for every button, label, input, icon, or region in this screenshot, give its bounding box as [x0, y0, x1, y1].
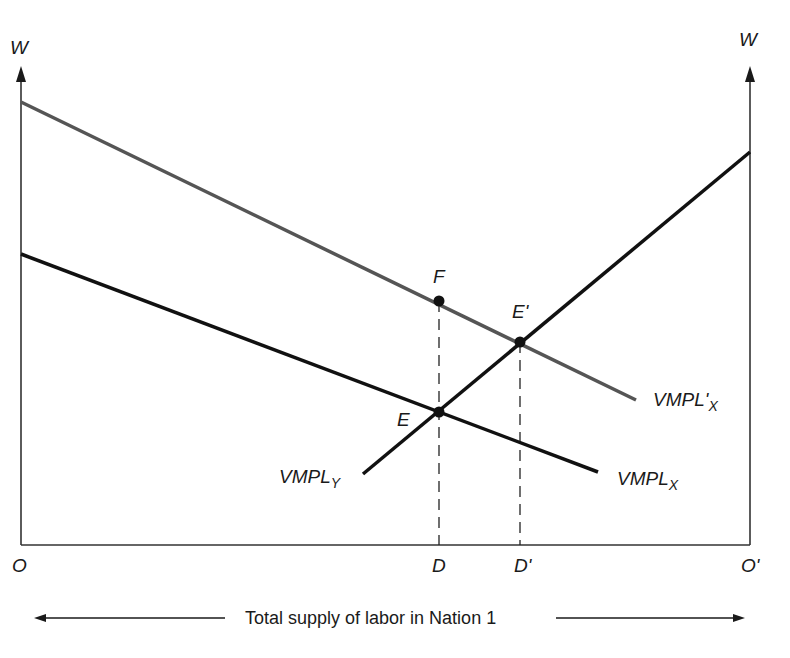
- point-e: [434, 407, 445, 418]
- x-axis-caption: Total supply of labor in Nation 1: [245, 609, 496, 627]
- curve-vmpl-y-sub: Y: [331, 475, 340, 491]
- caption-arrow-left-icon: [34, 614, 46, 622]
- curve-vmpl-x-prime: [21, 102, 636, 400]
- point-f: [434, 296, 445, 307]
- curve-vmpl-x-prime-sub: X: [708, 398, 717, 414]
- marker-d-label: D: [432, 556, 446, 575]
- left-axis-label: W: [10, 38, 28, 57]
- curve-vmpl-x-prime-label: VMPL'X: [653, 390, 718, 413]
- caption-arrow-right-icon: [733, 614, 745, 622]
- curve-vmpl-x-prime-main: VMPL': [653, 389, 708, 410]
- curve-vmpl-y-label: VMPLY: [279, 467, 340, 490]
- point-f-label: F: [433, 267, 445, 286]
- point-e-label: E: [397, 410, 410, 429]
- diagram-canvas: [0, 0, 790, 658]
- point-e-prime: [515, 337, 526, 348]
- left-axis-arrow-icon: [16, 66, 26, 82]
- curve-vmpl-y: [363, 152, 750, 474]
- curve-vmpl-x-sub: X: [669, 477, 678, 493]
- marker-d-prime-label: D': [514, 556, 531, 575]
- origin-right-label: O': [741, 556, 759, 575]
- curve-vmpl-x-label: VMPLX: [617, 469, 678, 492]
- point-e-prime-label: E': [512, 302, 528, 321]
- curve-vmpl-x: [21, 254, 598, 472]
- origin-left-label: O: [12, 556, 27, 575]
- curve-vmpl-x-main: VMPL: [617, 468, 669, 489]
- right-axis-arrow-icon: [745, 66, 755, 82]
- curve-vmpl-y-main: VMPL: [279, 466, 331, 487]
- right-axis-label: W: [739, 30, 757, 49]
